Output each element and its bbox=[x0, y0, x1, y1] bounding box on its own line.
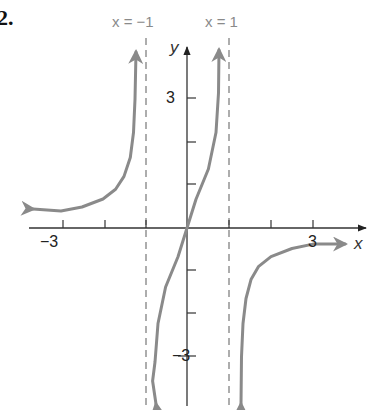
x-axis-label: x bbox=[354, 234, 363, 254]
y-tick-label-3: 3 bbox=[166, 89, 175, 107]
curve-left-branch bbox=[33, 52, 136, 211]
curve-right-branch bbox=[241, 244, 345, 404]
y-axis-label: y bbox=[170, 38, 179, 58]
graph bbox=[0, 0, 383, 410]
x-tick-label-neg3: −3 bbox=[40, 233, 58, 251]
x-tick-label-3: 3 bbox=[308, 233, 317, 251]
y-tick-label-neg3: −3 bbox=[172, 347, 190, 365]
